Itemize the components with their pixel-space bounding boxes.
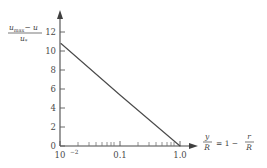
svg-text:umax− u: umax− u [9, 23, 38, 33]
y-axis-arrow-icon [57, 10, 63, 19]
x-tick-label-0p1: 0.1 [113, 150, 127, 160]
y-tick-label-4: 4 [51, 103, 56, 113]
x-axis-arrow-icon [189, 143, 198, 149]
y-label-numer-sub: max [14, 27, 25, 33]
y-axis-ticks [60, 32, 65, 146]
y-tick-label-6: 6 [51, 84, 56, 94]
y-tick-label-8: 8 [51, 65, 56, 75]
y-tick-label-12: 12 [45, 27, 56, 37]
y-label-numer-minus-u: − u [24, 23, 38, 32]
x-label-num-r: r [247, 132, 251, 141]
x-label-den-R: R [203, 143, 210, 152]
svg-text:10: 10 [55, 150, 66, 160]
x-tick-label-1e-2: 10 −2 [55, 149, 79, 160]
y-tick-label-10: 10 [45, 46, 56, 56]
y-axis-label: umax− u u* [8, 23, 42, 44]
x-tick-label-1p0: 1.0 [173, 150, 187, 160]
svg-text:u*: u* [20, 34, 28, 44]
x-axis-label: y R = 1 − r R [203, 132, 254, 152]
x-label-equals-expr: = 1 − [216, 139, 238, 148]
figure-container: 0 2 4 6 8 10 12 10 −2 0.1 1.0 umax− u u*… [0, 0, 267, 168]
x-label-num-y: y [204, 132, 210, 141]
y-label-denom-sub: * [25, 38, 28, 44]
velocity-defect-plot: 0 2 4 6 8 10 12 10 −2 0.1 1.0 umax− u u*… [0, 0, 267, 168]
data-series-velocity-defect [61, 44, 180, 147]
y-tick-label-2: 2 [51, 122, 56, 132]
x-label-den-R2: R [245, 143, 252, 152]
x-axis-minor-ticks [78, 142, 174, 146]
x-tick-exponent: −2 [70, 149, 79, 155]
